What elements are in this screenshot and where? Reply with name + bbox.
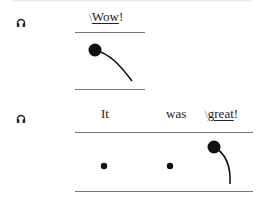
word-wow[interactable]: \Wow!	[89, 10, 123, 25]
pitch-dot-was	[166, 162, 174, 170]
word-great[interactable]: \great!	[205, 107, 238, 122]
upper-rule	[75, 132, 253, 133]
lower-rule	[75, 89, 145, 90]
upper-rule	[75, 32, 145, 33]
headphones-icon[interactable]	[16, 18, 26, 28]
word-was[interactable]: was	[166, 107, 186, 121]
pitch-contour-fall	[203, 137, 243, 187]
lower-rule	[75, 191, 253, 192]
pitch-dot-it	[100, 162, 108, 170]
word-it[interactable]: It	[101, 107, 109, 121]
top-divider	[12, 0, 252, 2]
headphones-icon[interactable]	[16, 114, 26, 124]
pitch-contour-fall	[85, 40, 135, 85]
